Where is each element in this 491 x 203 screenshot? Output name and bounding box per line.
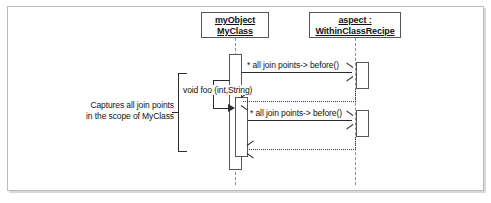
lifeline-header-myobject: myObject MyClass xyxy=(201,12,269,38)
message-arrow-before-call-2 xyxy=(248,120,352,121)
lifeline-header-aspect: aspect : WithinClassRecipe xyxy=(309,12,401,38)
annotation-bracket xyxy=(178,73,187,152)
message-label-before-2: * all join points-> before() xyxy=(250,108,342,118)
message-label-before-1: * all join points-> before() xyxy=(247,60,339,70)
arrowhead-call-2-icon xyxy=(345,115,352,125)
sequence-diagram-figure: myObject MyClass aspect : WithinClassRec… xyxy=(0,0,491,203)
return-arrow-2-horizontal xyxy=(249,149,356,150)
activation-bar-aspect-second xyxy=(356,110,369,137)
message-label-void-foo: void foo (int,String) xyxy=(182,85,253,95)
arrowhead-call-1-icon xyxy=(345,67,352,77)
message-arrow-before-call-1 xyxy=(242,72,352,73)
arrowhead-return-2-icon xyxy=(248,145,255,154)
arrowhead-return-1-icon xyxy=(242,97,249,106)
annotation-line-2: in the scope of MyClass xyxy=(62,111,174,122)
annotation-captures-scope: Captures all join points in the scope of… xyxy=(62,100,174,122)
lifeline-name-aspect-instance: aspect : xyxy=(310,15,400,26)
self-call-segment-top xyxy=(213,80,230,81)
lifeline-name-myobject-class: MyClass xyxy=(202,26,268,37)
return-arrow-1-horizontal xyxy=(243,101,356,102)
activation-bar-aspect-first xyxy=(356,62,369,89)
lifeline-name-myobject-instance: myObject xyxy=(202,15,268,26)
lifeline-name-aspect-class: WithinClassRecipe xyxy=(310,26,400,37)
arrowhead-self-call-icon xyxy=(228,104,235,112)
annotation-line-1: Captures all join points xyxy=(62,100,174,111)
